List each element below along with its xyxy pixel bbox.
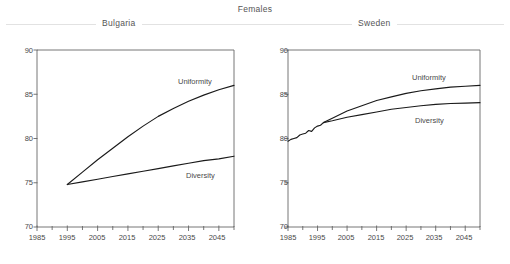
sweden-xtick-2045: 2045 (447, 233, 481, 242)
bulgaria-series-label-diversity: Diversity (186, 171, 215, 180)
chart-panel-sweden: 90 85 80 75 70 1985 1995 2005 2015 2025 … (255, 0, 510, 264)
bulgaria-xtick-2015: 2015 (110, 233, 144, 242)
sweden-ytick-75: 75 (266, 178, 288, 187)
sweden-series-label-diversity: Diversity (415, 116, 444, 125)
sweden-ytick-80: 80 (266, 134, 288, 143)
bulgaria-xtick-2025: 2025 (140, 233, 174, 242)
bulgaria-xtick-1995: 1995 (50, 233, 84, 242)
bulgaria-ytick-80: 80 (11, 134, 33, 143)
figure-canvas: Females Bulgaria Sweden 90 85 80 75 70 1… (0, 0, 510, 264)
bulgaria-ytick-70: 70 (11, 222, 33, 231)
bulgaria-ytick-90: 90 (11, 46, 33, 55)
bulgaria-xtick-2045: 2045 (200, 233, 234, 242)
bulgaria-series-label-uniformity: Uniformity (178, 77, 212, 86)
sweden-ytick-85: 85 (266, 90, 288, 99)
sweden-ytick-90: 90 (266, 46, 288, 55)
sweden-plot-area (255, 0, 510, 264)
bulgaria-ytick-85: 85 (11, 90, 33, 99)
sweden-xtick-2035: 2035 (417, 233, 451, 242)
bulgaria-xtick-1985: 1985 (20, 233, 54, 242)
sweden-series-label-uniformity: Uniformity (412, 73, 446, 82)
sweden-ytick-70: 70 (266, 222, 288, 231)
chart-panel-bulgaria: 90 85 80 75 70 1985 1995 2005 2015 2025 … (0, 0, 255, 264)
bulgaria-plot-area (0, 0, 255, 264)
bulgaria-ytick-75: 75 (11, 178, 33, 187)
bulgaria-xtick-2005: 2005 (80, 233, 114, 242)
sweden-xtick-2005: 2005 (329, 233, 363, 242)
bulgaria-xtick-2035: 2035 (170, 233, 204, 242)
